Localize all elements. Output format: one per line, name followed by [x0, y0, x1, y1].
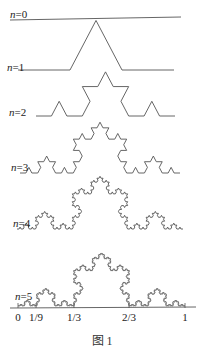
level-value: =5 — [21, 290, 33, 302]
koch-curve-n2 — [36, 72, 175, 116]
level-label-n0: n=0 — [10, 9, 27, 20]
level-value: =4 — [19, 217, 31, 229]
level-label-n5: n=5 — [15, 291, 32, 302]
level-value: =0 — [16, 8, 28, 20]
koch-curve-n4 — [17, 176, 183, 229]
axis-tick-label: 1/9 — [29, 312, 43, 323]
level-label-n4: n=4 — [13, 218, 30, 229]
axis-tick-label: 2/3 — [122, 312, 136, 323]
koch-curve-n1 — [18, 20, 174, 70]
koch-curve-n0 — [10, 17, 181, 20]
level-label-n1: n=1 — [7, 62, 24, 73]
axis-tick-label: 1/3 — [67, 312, 81, 323]
figure-caption: 图 1 — [0, 331, 204, 349]
level-value: =1 — [13, 61, 25, 73]
koch-curve-n5 — [18, 253, 185, 306]
axis-tick-label: 1 — [182, 312, 188, 323]
level-label-n3: n=3 — [11, 162, 28, 173]
level-value: =2 — [15, 106, 27, 118]
axis-tick-label: 0 — [15, 312, 21, 323]
koch-curve-n3 — [20, 122, 180, 173]
x-axis-line — [10, 307, 196, 308]
level-value: =3 — [17, 161, 29, 173]
level-label-n2: n=2 — [9, 107, 26, 118]
